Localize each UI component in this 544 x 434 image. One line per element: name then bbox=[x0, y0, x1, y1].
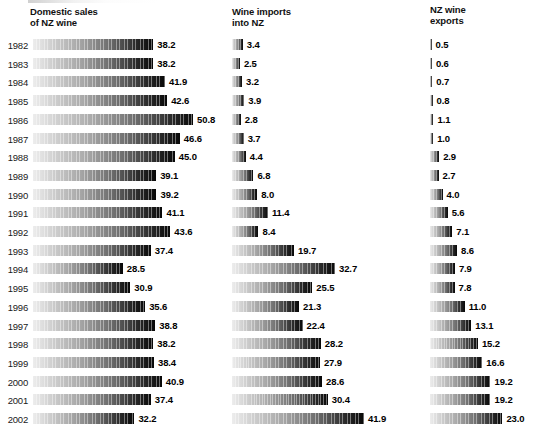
value-bar bbox=[430, 76, 432, 87]
value-bar bbox=[232, 39, 243, 50]
bar-row: 199530.9 bbox=[0, 281, 220, 300]
year-label: 1997 bbox=[0, 321, 28, 332]
bar-value-label: 0.7 bbox=[436, 76, 449, 88]
bar-row: 2.9 bbox=[410, 150, 544, 169]
year-label: 2001 bbox=[0, 395, 28, 406]
bar-row: 3.9 bbox=[220, 94, 410, 113]
value-bar bbox=[33, 226, 170, 237]
bar-row: 198542.6 bbox=[0, 94, 220, 113]
value-bar bbox=[232, 151, 246, 162]
bar-row: 13.1 bbox=[410, 319, 544, 338]
bar-row: 199428.5 bbox=[0, 262, 220, 281]
bar-row: 0.8 bbox=[410, 94, 544, 113]
bar-row: 200232.2 bbox=[0, 412, 220, 431]
bar-value-label: 38.2 bbox=[157, 338, 175, 350]
bar-row: 3.4 bbox=[220, 38, 410, 57]
bar-row: 200137.4 bbox=[0, 393, 220, 412]
value-bar bbox=[33, 263, 123, 274]
bar-value-label: 37.4 bbox=[155, 394, 173, 406]
bar-value-label: 16.6 bbox=[486, 357, 504, 369]
bar-row: 30.4 bbox=[220, 393, 410, 412]
value-bar bbox=[33, 189, 156, 200]
bar-row: 11.4 bbox=[220, 206, 410, 225]
bar-row: 199141.1 bbox=[0, 206, 220, 225]
bar-value-label: 28.2 bbox=[325, 338, 343, 350]
bar-row: 198441.9 bbox=[0, 75, 220, 94]
bar-row: 199243.6 bbox=[0, 225, 220, 244]
panel-title-wine-imports: Wine imports into NZ bbox=[232, 6, 291, 29]
value-bar bbox=[232, 170, 253, 181]
year-label: 1996 bbox=[0, 302, 28, 313]
bar-value-label: 46.6 bbox=[184, 133, 202, 145]
bar-value-label: 0.8 bbox=[437, 95, 450, 107]
bar-row: 0.5 bbox=[410, 38, 544, 57]
year-label: 1999 bbox=[0, 358, 28, 369]
bar-value-label: 2.8 bbox=[245, 114, 258, 126]
bar-value-label: 41.9 bbox=[368, 413, 386, 425]
value-bar bbox=[33, 39, 153, 50]
bar-value-label: 8.0 bbox=[261, 189, 274, 201]
bar-row: 3.7 bbox=[220, 132, 410, 151]
year-label: 1985 bbox=[0, 96, 28, 107]
value-bar bbox=[33, 207, 162, 218]
bar-row: 198238.2 bbox=[0, 38, 220, 57]
value-bar bbox=[430, 320, 471, 331]
year-label: 2000 bbox=[0, 377, 28, 388]
bar-row: 2.5 bbox=[220, 57, 410, 76]
year-label: 1994 bbox=[0, 264, 28, 275]
bar-row: 199039.2 bbox=[0, 188, 220, 207]
value-bar bbox=[33, 413, 134, 424]
value-bar bbox=[430, 263, 455, 274]
bar-row: 7.9 bbox=[410, 262, 544, 281]
bar-row: 23.0 bbox=[410, 412, 544, 431]
value-bar bbox=[430, 376, 490, 387]
bar-row: 28.2 bbox=[220, 337, 410, 356]
year-label: 1982 bbox=[0, 40, 28, 51]
value-bar bbox=[33, 95, 167, 106]
bar-row: 199838.2 bbox=[0, 337, 220, 356]
bar-value-label: 23.0 bbox=[506, 413, 524, 425]
value-bar bbox=[232, 207, 268, 218]
bar-row: 2.7 bbox=[410, 169, 544, 188]
bar-row: 11.0 bbox=[410, 300, 544, 319]
value-bar bbox=[33, 376, 162, 387]
value-bar bbox=[33, 338, 153, 349]
bar-row: 32.7 bbox=[220, 262, 410, 281]
bar-row: 3.2 bbox=[220, 75, 410, 94]
bar-row: 15.2 bbox=[410, 337, 544, 356]
bar-value-label: 11.0 bbox=[469, 301, 487, 313]
bar-value-label: 1.1 bbox=[437, 114, 450, 126]
bar-value-label: 3.9 bbox=[248, 95, 261, 107]
bar-row: 21.3 bbox=[220, 300, 410, 319]
bar-row: 8.4 bbox=[220, 225, 410, 244]
year-label: 1988 bbox=[0, 152, 28, 163]
value-bar bbox=[430, 133, 433, 144]
bar-row: 4.0 bbox=[410, 188, 544, 207]
bar-value-label: 2.5 bbox=[244, 58, 257, 70]
bar-value-label: 19.7 bbox=[298, 245, 316, 257]
bar-value-label: 15.2 bbox=[482, 338, 500, 350]
year-label: 1995 bbox=[0, 283, 28, 294]
bar-value-label: 7.1 bbox=[456, 226, 469, 238]
value-bar bbox=[430, 151, 439, 162]
bar-value-label: 8.6 bbox=[461, 245, 474, 257]
value-bar bbox=[430, 114, 433, 125]
bar-value-label: 7.9 bbox=[459, 263, 472, 275]
bar-value-label: 41.9 bbox=[169, 76, 187, 88]
bar-row: 22.4 bbox=[220, 319, 410, 338]
value-bar bbox=[430, 282, 455, 293]
bar-value-label: 4.0 bbox=[447, 189, 460, 201]
bar-row: 0.6 bbox=[410, 57, 544, 76]
value-bar bbox=[430, 95, 433, 106]
value-bar bbox=[430, 338, 478, 349]
value-bar bbox=[430, 245, 457, 256]
value-bar bbox=[33, 394, 151, 405]
panel-domestic-sales: Domestic sales of NZ wine 198238.2198338… bbox=[0, 0, 220, 434]
bar-value-label: 0.6 bbox=[436, 58, 449, 70]
chart-root: Domestic sales of NZ wine 198238.2198338… bbox=[0, 0, 544, 434]
value-bar bbox=[232, 133, 244, 144]
value-bar bbox=[430, 207, 448, 218]
value-bar bbox=[430, 226, 452, 237]
bar-value-label: 28.5 bbox=[127, 263, 145, 275]
bar-value-label: 27.9 bbox=[324, 357, 342, 369]
